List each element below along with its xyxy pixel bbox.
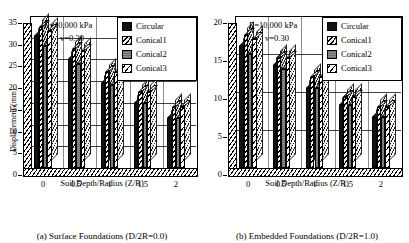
bar-side-face (289, 44, 296, 161)
x-axis-label-a: Soil Depth/Radius (Z/R) (0, 178, 204, 188)
figure-sheet: 0510152025303500.511.52E=10,000 kPav=0.3… (0, 0, 409, 243)
y-axis-tick-mark (18, 45, 22, 46)
bar (286, 58, 290, 168)
gridline-vertical (301, 16, 302, 168)
y-axis-tick-mark (18, 132, 22, 133)
panel-caption-a: (a) Surface Foundations (D/2R=0.0) (0, 231, 204, 241)
bar (47, 31, 51, 168)
bar (81, 51, 85, 168)
y-axis-tick-label: 20 (202, 17, 222, 27)
y-axis-tick-mark (18, 23, 22, 24)
legend-item-label: Conical1 (136, 36, 167, 45)
axis-wall-3d (23, 23, 32, 177)
axis-wall-3d (228, 23, 237, 177)
bar-side-face (84, 37, 91, 161)
legend-item-conical2[interactable]: Conical2 (327, 50, 372, 59)
bar (180, 107, 184, 168)
y-axis-tick-label: 15 (202, 55, 222, 65)
bar (352, 97, 356, 168)
legend-item-label: Circular (341, 22, 369, 31)
panel-caption-b: (b) Embedded Foundations (D/2R=1.0) (205, 231, 409, 241)
legend-item-label: Conical2 (136, 50, 167, 59)
axis-floor-3d (228, 168, 403, 177)
bar (385, 107, 389, 168)
y-axis-tick-mark (18, 153, 22, 154)
y-axis-tick-mark (18, 88, 22, 89)
plot-area-a: 0510152025303500.511.52E=10,000 kPav=0.3… (0, 0, 204, 196)
legend-item-label: Circular (136, 22, 164, 31)
legend-item-label: Conical1 (341, 36, 372, 45)
legend-item-conical1[interactable]: Conical1 (122, 36, 167, 45)
legend-swatch-icon (122, 64, 132, 73)
y-axis-tick-mark (18, 66, 22, 67)
annotation-poisson: v=0.30 (60, 33, 84, 43)
legend-item-label: Conical2 (341, 50, 372, 59)
y-axis-tick-mark (223, 23, 227, 24)
y-axis-tick-mark (18, 110, 22, 111)
y-axis-tick-mark (223, 61, 227, 62)
legend-item-circular[interactable]: Circular (122, 22, 164, 31)
legend-item-circular[interactable]: Circular (327, 22, 369, 31)
legend-item-conical1[interactable]: Conical1 (327, 36, 372, 45)
annotation-modulus: E=10,000 kPa (249, 20, 297, 30)
chart-panel-a: 0510152025303500.511.52E=10,000 kPav=0.3… (0, 0, 204, 243)
bar-side-face (51, 17, 58, 161)
annotation-modulus: E=10,000 kPa (44, 20, 92, 30)
bar (114, 72, 118, 168)
chart-panel-b: 0510152000.511.52E=10,000 kPav=0.30Circu… (205, 0, 409, 243)
legend-swatch-icon (327, 64, 337, 73)
y-axis-label-a: Displacement (mm) (9, 42, 18, 152)
axis-floor-3d (23, 168, 198, 177)
y-axis-tick-label: 5 (202, 131, 222, 141)
y-axis-tick-mark (223, 175, 227, 176)
legend-item-label: Conical3 (341, 64, 372, 73)
y-axis-tick-label: 10 (202, 93, 222, 103)
legend-swatch-icon (327, 50, 337, 59)
y-axis-tick-mark (18, 175, 22, 176)
legend-item-conical3[interactable]: Conical3 (327, 64, 372, 73)
legend-swatch-icon (327, 36, 337, 45)
legend-swatch-icon (122, 22, 132, 31)
legend-swatch-icon (122, 50, 132, 59)
bar (252, 39, 256, 168)
bar (147, 92, 151, 168)
legend-swatch-icon (122, 36, 132, 45)
plot-area-b: 0510152000.511.52E=10,000 kPav=0.30Circu… (205, 0, 409, 196)
bar (319, 77, 323, 168)
y-axis-tick-mark (223, 137, 227, 138)
legend-swatch-icon (327, 22, 337, 31)
gridline-vertical (96, 16, 97, 168)
annotation-poisson: v=0.30 (265, 33, 289, 43)
legend-item-conical2[interactable]: Conical2 (122, 50, 167, 59)
bar-side-face (256, 25, 263, 161)
x-axis-label-b: Soil Depth/Radius (Z/R) (205, 178, 409, 188)
y-axis-tick-label: 35 (0, 17, 17, 27)
legend-item-conical3[interactable]: Conical3 (122, 64, 167, 73)
legend-item-label: Conical3 (136, 64, 167, 73)
y-axis-tick-mark (223, 99, 227, 100)
